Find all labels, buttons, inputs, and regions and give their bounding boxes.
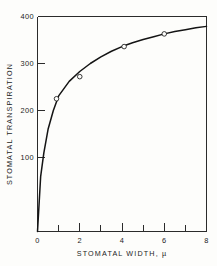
plot-frame: [38, 17, 207, 232]
data-point-marker: [122, 44, 127, 49]
y-tick-label-300: 300: [20, 59, 34, 68]
y-axis-ticks: [38, 17, 45, 158]
x-tick-label-6: 6: [162, 236, 167, 245]
y-tick-label-400: 400: [20, 12, 34, 21]
x-tick-label-4: 4: [120, 236, 125, 245]
x-tick-label-8: 8: [204, 236, 209, 245]
y-tick-label-200: 200: [20, 106, 34, 115]
x-tick-label-2: 2: [78, 236, 83, 245]
data-point-marker: [77, 74, 82, 79]
data-point-markers: [54, 32, 166, 101]
figure-panel: 400 300 200 100 0 2 4 6 8 STOMATAL: [0, 0, 217, 266]
x-tick-label-0: 0: [35, 236, 40, 245]
y-axis-title: STOMATAL TRANSPIRATION: [5, 63, 14, 185]
chart-svg: 400 300 200 100 0 2 4 6 8 STOMATAL: [0, 0, 217, 266]
fitted-curve: [38, 26, 207, 231]
y-axis-tick-labels: 400 300 200 100: [20, 12, 34, 162]
data-point-marker: [54, 96, 59, 101]
x-axis-ticks: [59, 223, 186, 232]
x-axis-title: STOMATAL WIDTH, µ: [77, 249, 168, 258]
y-tick-label-100: 100: [20, 153, 34, 162]
data-point-marker: [162, 32, 167, 37]
x-axis-tick-labels: 0 2 4 6 8: [35, 236, 209, 245]
